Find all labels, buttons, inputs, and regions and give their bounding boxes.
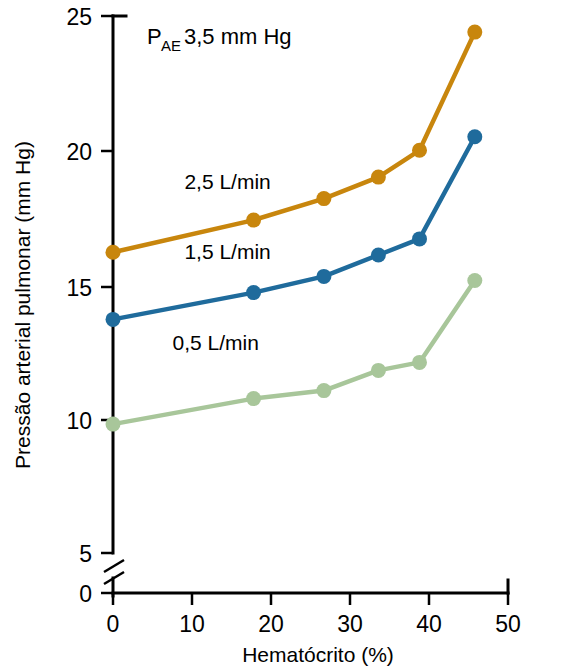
series-line-2 <box>113 137 475 320</box>
pae-annotation-main: P <box>147 24 162 49</box>
data-point <box>246 213 261 228</box>
line-chart: 25 20 15 10 5 0 0 10 20 30 40 50 Hematóc… <box>0 0 568 667</box>
y-tick-label-15: 15 <box>66 275 92 301</box>
x-tick-label-40: 40 <box>416 611 442 637</box>
y-tick-label-5: 5 <box>79 541 92 567</box>
x-tick-label-30: 30 <box>337 611 363 637</box>
chart-figure: 25 20 15 10 5 0 0 10 20 30 40 50 Hematóc… <box>0 0 568 667</box>
series-2 <box>106 129 483 327</box>
y-tick-label-0: 0 <box>79 581 92 607</box>
data-point <box>316 269 331 284</box>
series-label-0-5-lmin: 0,5 L/min <box>173 331 259 354</box>
data-point <box>316 383 331 398</box>
data-point <box>371 248 386 263</box>
data-point <box>371 170 386 185</box>
series-3 <box>106 273 483 432</box>
x-tick-marks <box>113 593 508 605</box>
series-label-2-5-lmin: 2,5 L/min <box>184 170 270 193</box>
pae-annotation-subscript: AE <box>161 37 181 54</box>
data-point <box>467 25 482 40</box>
data-point <box>106 245 121 260</box>
data-point <box>106 417 121 432</box>
series-label-1-5-lmin: 1,5 L/min <box>184 240 270 263</box>
series-line-1 <box>113 32 475 252</box>
x-tick-label-20: 20 <box>258 611 284 637</box>
y-tick-label-20: 20 <box>66 139 92 165</box>
data-point <box>467 273 482 288</box>
series-line-3 <box>113 281 475 425</box>
data-point <box>246 285 261 300</box>
pae-annotation-value: 3,5 mm Hg <box>184 24 292 49</box>
y-tick-label-10: 10 <box>66 408 92 434</box>
data-point <box>412 231 427 246</box>
pae-annotation: P AE 3,5 mm Hg <box>147 24 292 54</box>
x-tick-label-10: 10 <box>179 611 205 637</box>
y-tick-marks <box>101 16 113 593</box>
data-point <box>106 312 121 327</box>
y-axis-title: Pressão arterial pulmonar (mm Hg) <box>11 141 34 469</box>
data-point <box>467 129 482 144</box>
y-tick-label-25: 25 <box>66 4 92 30</box>
x-axis-title: Hematócrito (%) <box>242 643 394 666</box>
data-point <box>412 355 427 370</box>
x-tick-label-0: 0 <box>107 611 120 637</box>
data-point <box>316 191 331 206</box>
series-layer <box>106 25 483 432</box>
x-tick-label-50: 50 <box>495 611 521 637</box>
data-point <box>246 391 261 406</box>
data-point <box>412 143 427 158</box>
data-point <box>371 363 386 378</box>
